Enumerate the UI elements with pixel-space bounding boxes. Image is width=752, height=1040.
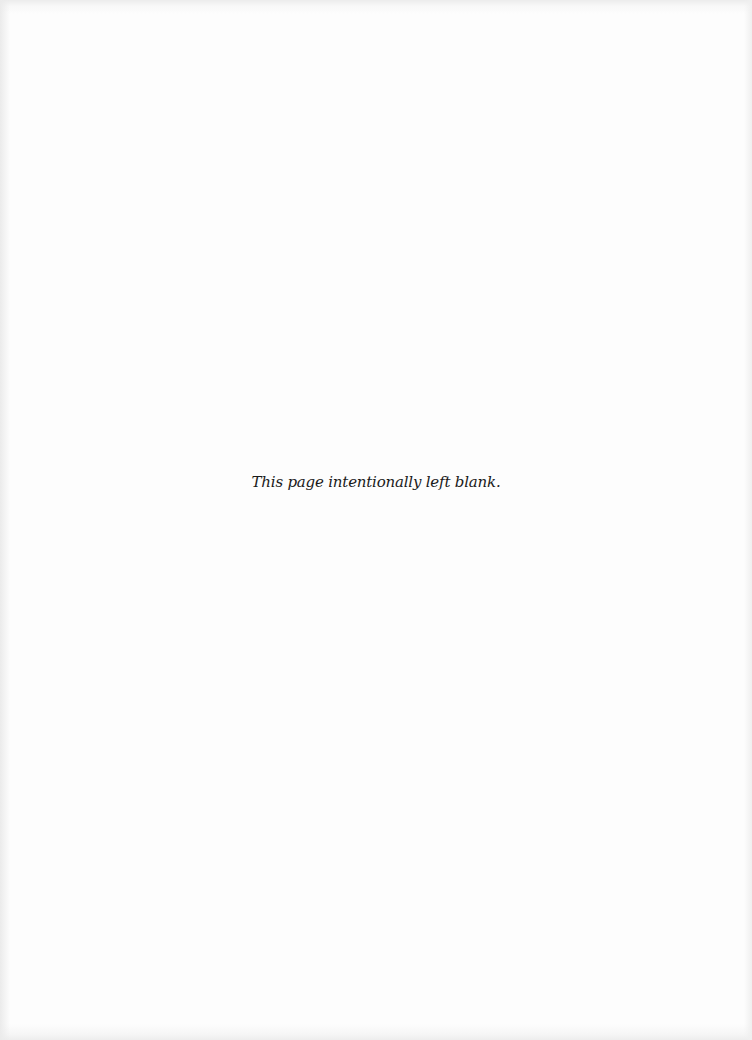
blank-page-notice: This page intentionally left blank. (0, 472, 752, 492)
blank-page: This page intentionally left blank. (0, 0, 752, 1040)
